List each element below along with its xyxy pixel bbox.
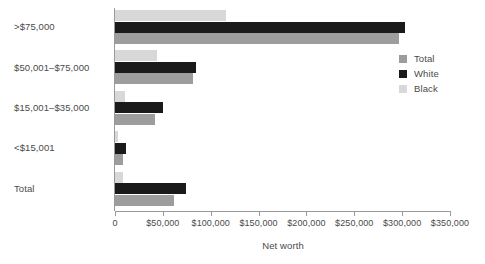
legend-swatch-icon: [399, 85, 407, 93]
x-tick: [354, 211, 355, 216]
bar-group: [115, 131, 450, 171]
x-tick-label: $350,000: [431, 218, 469, 228]
legend-item-black: Black: [399, 81, 439, 96]
chart-legend: TotalWhiteBlack: [399, 51, 439, 96]
x-tick: [115, 211, 116, 216]
x-tick: [259, 211, 260, 216]
x-tick-label: $300,000: [383, 218, 421, 228]
bar-black-4: [115, 10, 226, 21]
x-tick: [211, 211, 212, 216]
x-tick-label: $200,000: [287, 218, 325, 228]
legend-item-white: White: [399, 66, 439, 81]
bar-black-2: [115, 91, 125, 102]
x-tick: [306, 211, 307, 216]
bar-white-4: [115, 22, 405, 33]
bar-group: [115, 172, 450, 212]
bar-white-3: [115, 62, 196, 73]
bar-total-2: [115, 114, 155, 125]
bar-black-0: [115, 172, 123, 183]
x-tick-label: $50,000: [146, 218, 179, 228]
category-label: Total: [14, 183, 119, 194]
category-label: $15,001–$35,000: [14, 102, 119, 113]
x-tick: [163, 211, 164, 216]
x-tick-label: 0: [112, 218, 117, 228]
bar-total-4: [115, 33, 399, 44]
x-tick: [402, 211, 403, 216]
bar-white-0: [115, 183, 186, 194]
legend-swatch-icon: [399, 70, 407, 78]
bar-total-3: [115, 73, 193, 84]
x-tick-label: $100,000: [192, 218, 230, 228]
bar-group: [115, 10, 450, 50]
bar-group: [115, 91, 450, 131]
legend-label: Total: [414, 53, 435, 64]
bar-total-0: [115, 195, 174, 206]
category-label: <$15,001: [14, 142, 119, 153]
bar-white-2: [115, 102, 163, 113]
x-axis-title: Net worth: [115, 240, 451, 251]
bar-black-3: [115, 50, 157, 61]
category-label: $50,001–$75,000: [14, 62, 119, 73]
net-worth-bar-chart: Total<$15,001$15,001–$35,000$50,001–$75,…: [0, 0, 485, 264]
bar-total-1: [115, 154, 123, 165]
legend-label: Black: [414, 83, 438, 94]
x-tick: [450, 211, 451, 216]
bar-black-1: [115, 131, 118, 142]
legend-item-total: Total: [399, 51, 439, 66]
category-label: >$75,000: [14, 21, 119, 32]
x-tick-label: $250,000: [335, 218, 373, 228]
plot-area: [115, 8, 450, 210]
legend-label: White: [414, 68, 439, 79]
x-tick-label: $150,000: [239, 218, 277, 228]
legend-swatch-icon: [399, 55, 407, 63]
